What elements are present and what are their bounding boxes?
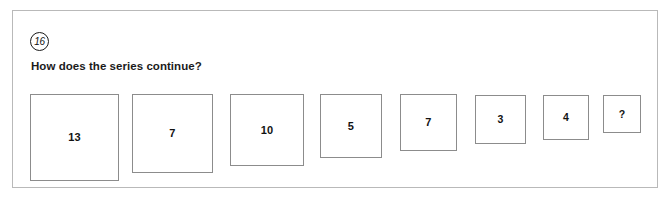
series-box-value: 3 (497, 114, 503, 125)
series-box[interactable]: 10 (230, 94, 304, 166)
series-box-value: 7 (425, 117, 431, 128)
series-box-value: 7 (169, 128, 175, 139)
series-box[interactable]: 13 (30, 94, 119, 181)
series-box[interactable]: 3 (475, 95, 526, 144)
series-box-value: 5 (348, 121, 354, 132)
series-row: 137105734? (13, 11, 657, 187)
question-card: 16 How does the series continue? 1371057… (12, 10, 658, 188)
series-box-value: ? (619, 109, 626, 120)
series-box[interactable]: 7 (132, 94, 213, 173)
series-box[interactable]: 7 (400, 94, 457, 151)
series-box-value: 4 (563, 112, 569, 123)
series-box[interactable]: 4 (543, 95, 589, 140)
series-box-value: 10 (261, 125, 274, 136)
series-box-value: 13 (68, 132, 81, 143)
series-box[interactable]: ? (603, 95, 641, 133)
series-box[interactable]: 5 (320, 94, 382, 158)
